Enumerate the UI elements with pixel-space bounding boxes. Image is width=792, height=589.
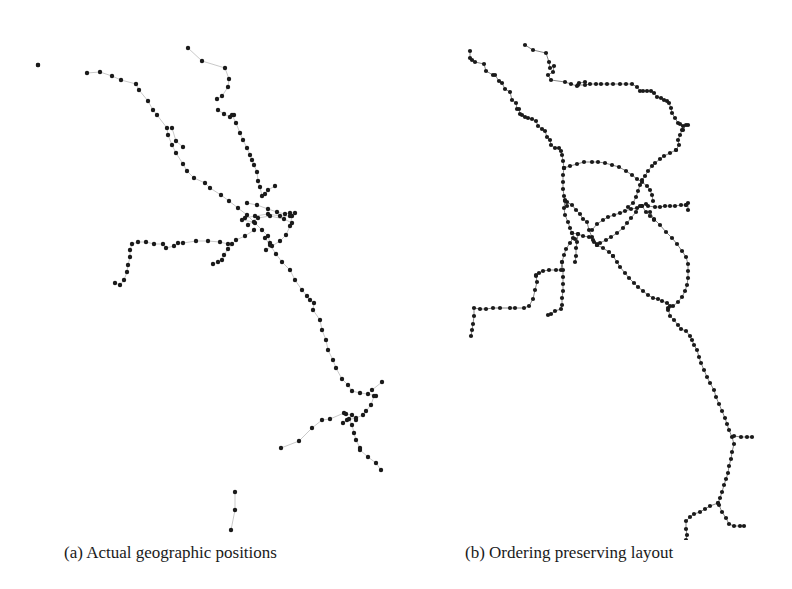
graph-node [568, 226, 572, 230]
graph-node [561, 180, 565, 184]
graph-node [684, 519, 688, 523]
graph-node [690, 338, 694, 342]
graph-node [575, 240, 579, 244]
graph-node [582, 160, 586, 164]
graph-node [646, 204, 650, 208]
graph-node [523, 43, 527, 47]
graph-node [548, 66, 552, 70]
graph-node [568, 164, 572, 168]
graph-node [635, 85, 639, 89]
graph-node [668, 151, 672, 155]
graph-node [546, 313, 550, 317]
graph-node [750, 435, 754, 439]
graph-node [645, 184, 649, 188]
graph-node [581, 234, 585, 238]
graph-panel-b [0, 0, 792, 540]
graph-node [720, 409, 724, 413]
graph-node [552, 64, 556, 68]
graph-node [652, 91, 656, 95]
graph-node [615, 231, 619, 235]
graph-node [630, 173, 634, 177]
graph-node [717, 402, 721, 406]
graph-node [630, 82, 634, 86]
graph-node [629, 207, 633, 211]
graph-node [673, 116, 677, 120]
graph-node [699, 361, 703, 365]
graph-node [551, 70, 555, 74]
graph-node [708, 381, 712, 385]
graph-node [560, 296, 564, 300]
graph-node [610, 163, 614, 167]
graph-node [585, 220, 589, 224]
graph-node [653, 161, 657, 165]
graph-node [493, 73, 497, 77]
graph-node [599, 82, 603, 86]
graph-node [732, 524, 736, 528]
graph-node [660, 299, 664, 303]
graph-node [566, 220, 570, 224]
graph-node [686, 201, 690, 205]
graph-node [623, 271, 627, 275]
graph-node [484, 307, 488, 311]
graph-node [724, 477, 728, 481]
graph-node [606, 215, 610, 219]
graph-node [583, 83, 587, 87]
graph-node [658, 205, 662, 209]
graph-node [672, 318, 676, 322]
graph-node [679, 203, 683, 207]
graph-node [670, 111, 674, 115]
graph-edge [719, 505, 744, 526]
graph-node [568, 241, 572, 245]
graph-node [625, 221, 629, 225]
graph-node [546, 73, 550, 77]
graph-node [588, 82, 592, 86]
graph-node [705, 375, 709, 379]
graph-node [646, 169, 650, 173]
graph-node [703, 507, 707, 511]
graph-node [564, 247, 568, 251]
graph-node [563, 80, 567, 84]
graph-node [745, 435, 749, 439]
graph-node [684, 329, 688, 333]
graph-node [662, 154, 666, 158]
graph-node [618, 265, 622, 269]
graph-node [676, 323, 680, 327]
graph-node [605, 82, 609, 86]
graph-node [547, 60, 551, 64]
graph-node [738, 524, 742, 528]
graph-edge [668, 308, 734, 503]
graph-node [560, 303, 564, 307]
graph-node [724, 516, 728, 520]
graph-node [640, 180, 644, 184]
graph-node [503, 87, 507, 91]
graph-node [472, 314, 476, 318]
graph-node [612, 213, 616, 217]
graph-node [491, 306, 495, 310]
graph-node [570, 231, 574, 235]
graph-node [732, 442, 736, 446]
graph-node [575, 162, 579, 166]
graph-node [677, 143, 681, 147]
graph-node [658, 157, 662, 161]
graph-node [510, 98, 514, 102]
graph-node [638, 204, 642, 208]
graph-node [727, 428, 731, 432]
graph-node [742, 524, 746, 528]
graph-node [563, 198, 567, 202]
graph-edge [578, 84, 683, 150]
graph-node [676, 138, 680, 142]
graph-node [729, 457, 733, 461]
graph-node [560, 153, 564, 157]
graph-node [498, 306, 502, 310]
graph-node [681, 128, 685, 132]
graph-node [720, 490, 724, 494]
graph-node [570, 203, 574, 207]
graph-node [658, 223, 662, 227]
graph-node [595, 222, 599, 226]
graph-node [726, 471, 730, 475]
graph-node [732, 434, 736, 438]
graph-node [563, 213, 567, 217]
graph-node [679, 327, 683, 331]
graph-node [634, 195, 638, 199]
graph-node [634, 210, 638, 214]
